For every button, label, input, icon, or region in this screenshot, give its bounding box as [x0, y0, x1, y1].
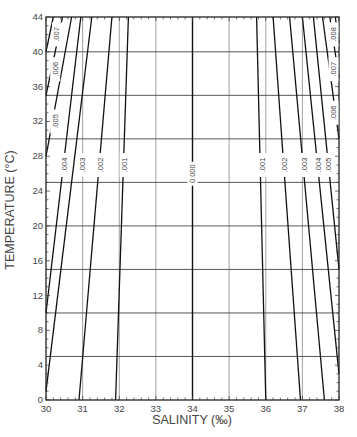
x-tick-label: 37 [297, 403, 308, 414]
x-axis-label: SALINITY (‰) [152, 413, 232, 427]
y-tick-label: 16 [32, 255, 43, 266]
y-tick-label: 8 [38, 324, 43, 335]
contour-line [273, 17, 300, 400]
contour-label: .002 [280, 158, 289, 173]
contour-label: .007 [52, 27, 61, 42]
contour-label: .005 [324, 158, 333, 173]
y-tick-labels: 048121620242832364044 [32, 11, 43, 405]
contour-label: .006 [51, 62, 60, 77]
y-tick-label: 32 [32, 115, 43, 126]
contour-label: .001 [258, 158, 267, 173]
x-tick-label: 36 [260, 403, 271, 414]
chart: 0.000.001.002.003.004.005.006.007.001.00… [0, 0, 357, 437]
contour-label: 0.000 [188, 164, 197, 183]
contour-label: .007 [329, 62, 338, 77]
contour-label: .003 [78, 158, 87, 173]
x-tick-label: 38 [334, 403, 345, 414]
y-tick-label: 0 [38, 394, 43, 405]
contour-labels: 0.000.001.002.003.004.005.006.007.001.00… [50, 22, 338, 185]
y-tick-label: 28 [32, 150, 43, 161]
y-tick-label: 4 [38, 359, 43, 370]
contour-label: .008 [329, 27, 338, 42]
contour-line [257, 17, 266, 400]
contour-line [79, 17, 112, 400]
y-tick-label: 40 [32, 46, 43, 57]
y-tick-label: 24 [32, 185, 43, 196]
y-tick-label: 36 [32, 81, 43, 92]
contour-label: .004 [60, 158, 69, 173]
contour-line [116, 17, 129, 400]
contour-label: .003 [300, 158, 309, 173]
x-tick-label: 31 [77, 403, 88, 414]
y-tick-label: 44 [32, 11, 43, 22]
contour-label: .002 [96, 158, 105, 173]
contour-curves [46, 17, 339, 400]
contour-label: .004 [314, 158, 323, 173]
x-tick-label: 32 [114, 403, 125, 414]
y-tick-label: 12 [32, 290, 43, 301]
contour-label: .006 [329, 105, 338, 120]
contour-label: .001 [120, 158, 129, 173]
y-tick-label: 20 [32, 220, 43, 231]
contour-label: .005 [51, 114, 60, 129]
y-axis-label: TEMPERATURE (°C) [3, 150, 17, 269]
